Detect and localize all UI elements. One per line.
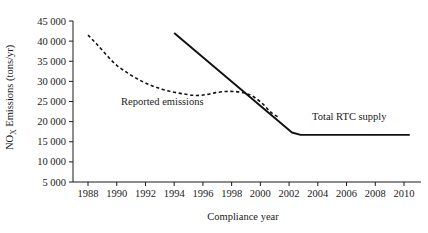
chart-container: 5 00010 00015 00020 00025 00030 00035 00… (0, 0, 428, 233)
x-tick-label: 1988 (78, 188, 99, 199)
y-tick-label: 10 000 (37, 156, 66, 167)
y-axis-title-main: NO (4, 134, 15, 150)
y-tick-label: 45 000 (37, 16, 66, 27)
y-tick-label: 30 000 (37, 76, 66, 87)
x-tick-label: 2006 (336, 188, 357, 199)
x-tick-label: 1994 (164, 188, 186, 199)
y-tick-label: 25 000 (37, 96, 66, 107)
y-tick-label: 5 000 (42, 177, 66, 188)
x-tick-label: 2010 (394, 188, 415, 199)
series-annotation-reported-emissions: Reported emissions (121, 96, 204, 107)
y-tick-label: 15 000 (37, 136, 66, 147)
x-tick-label: 1990 (106, 188, 127, 199)
x-tick-label: 2008 (365, 188, 386, 199)
series-annotation-total-rtc-supply: Total RTC supply (312, 111, 387, 122)
nox-emissions-line-chart: 5 00010 00015 00020 00025 00030 00035 00… (0, 0, 428, 233)
x-tick-label: 1992 (135, 188, 156, 199)
y-tick-label: 35 000 (37, 56, 66, 67)
y-tick-label: 40 000 (37, 36, 66, 47)
y-tick-label: 20 000 (37, 116, 66, 127)
x-tick-label: 1996 (192, 188, 213, 199)
x-axis-title-text: Compliance year (207, 211, 279, 222)
x-tick-label: 2000 (250, 188, 271, 199)
x-tick-label: 1998 (221, 188, 242, 199)
x-tick-label: 2004 (307, 188, 329, 199)
x-tick-label: 2002 (279, 188, 300, 199)
y-tick-labels: 5 00010 00015 00020 00025 00030 00035 00… (37, 16, 66, 188)
x-axis-title: Compliance year (207, 211, 279, 222)
y-axis-title-rest: Emissions (tons/yr) (4, 44, 16, 129)
